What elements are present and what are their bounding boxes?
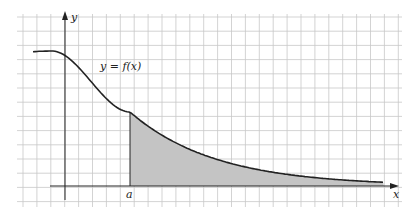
figure: y x y = f(x) a — [0, 0, 416, 221]
curve-label: y = f(x) — [99, 60, 141, 73]
y-axis-arrow-icon — [62, 11, 68, 20]
y-axis-label: y — [70, 11, 78, 24]
graph: y x y = f(x) a — [0, 0, 416, 221]
point-a-label: a — [126, 188, 133, 201]
x-axis-label: x — [393, 188, 400, 201]
shaded-area — [130, 112, 384, 186]
